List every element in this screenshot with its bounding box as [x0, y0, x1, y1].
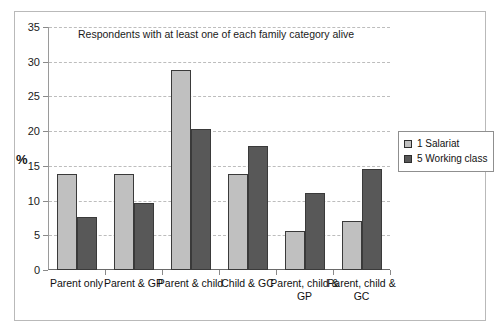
x-tick-mark — [105, 270, 106, 275]
bar — [305, 193, 325, 270]
bar-group — [285, 27, 325, 270]
y-tick-label: 10 — [10, 195, 40, 206]
y-tick-label: 35 — [10, 22, 40, 33]
y-tick-label: 5 — [10, 230, 40, 241]
bar — [114, 174, 134, 270]
bar — [57, 174, 77, 270]
y-tick-label: 0 — [10, 265, 40, 276]
legend-swatch-working-class — [404, 155, 412, 163]
x-tick-mark — [219, 270, 220, 275]
bar — [171, 70, 191, 270]
y-tick-label: 15 — [10, 160, 40, 171]
bar — [134, 203, 154, 270]
y-tick-label: 20 — [10, 126, 40, 137]
y-tick-label: 30 — [10, 56, 40, 67]
bar — [285, 231, 305, 270]
bar — [248, 146, 268, 270]
x-tick-label: Parent, child & GC — [319, 277, 405, 303]
x-tick-mark — [162, 270, 163, 275]
bars-layer — [48, 27, 390, 270]
legend-item: 1 Salariat — [404, 136, 487, 151]
bar — [228, 174, 248, 270]
y-tick-label: 25 — [10, 91, 40, 102]
bar — [362, 169, 382, 270]
y-tick-mark — [43, 270, 48, 271]
legend-item: 5 Working class — [404, 151, 487, 166]
x-tick-mark — [390, 270, 391, 275]
bar — [77, 217, 97, 270]
bar-group — [114, 27, 154, 270]
legend-label-salariat: 1 Salariat — [417, 138, 459, 149]
x-tick-mark — [333, 270, 334, 275]
bar — [191, 129, 211, 270]
bar-group — [57, 27, 97, 270]
chart-figure: Respondents with at least one of each fa… — [0, 0, 500, 333]
x-tick-mark — [276, 270, 277, 275]
bar — [342, 221, 362, 270]
chart-legend: 1 Salariat 5 Working class — [398, 131, 494, 172]
bar-group — [342, 27, 382, 270]
legend-label-working-class: 5 Working class — [417, 153, 487, 164]
bar-group — [228, 27, 268, 270]
bar-group — [171, 27, 211, 270]
legend-swatch-salariat — [404, 140, 412, 148]
